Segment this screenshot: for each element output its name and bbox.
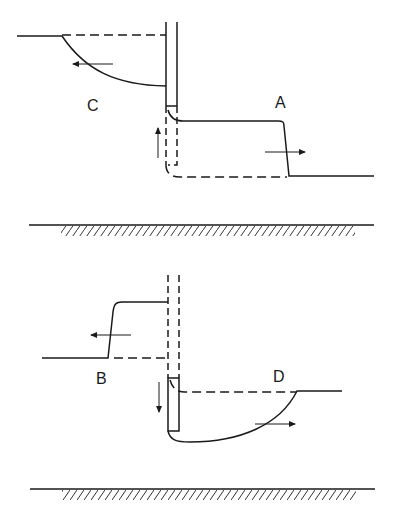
ground-line-lower xyxy=(30,489,375,500)
label-b: B xyxy=(96,370,107,387)
a-heave-curve xyxy=(168,110,374,176)
d-failure-curve xyxy=(168,391,342,442)
diagram-canvas: C A B D xyxy=(0,0,401,511)
c-failure-curve xyxy=(62,36,166,86)
lower-arrows xyxy=(91,335,295,424)
label-a: A xyxy=(275,94,286,111)
label-c: C xyxy=(87,97,99,114)
wall-displaced-dashed xyxy=(166,106,177,165)
upper-panel xyxy=(17,22,374,177)
upper-arrows xyxy=(73,64,305,158)
a-original-surface-dashed xyxy=(166,165,287,177)
b-heave-curve xyxy=(42,302,168,358)
ground-line-upper xyxy=(29,225,374,236)
label-d: D xyxy=(273,368,285,385)
lower-panel xyxy=(42,275,342,442)
